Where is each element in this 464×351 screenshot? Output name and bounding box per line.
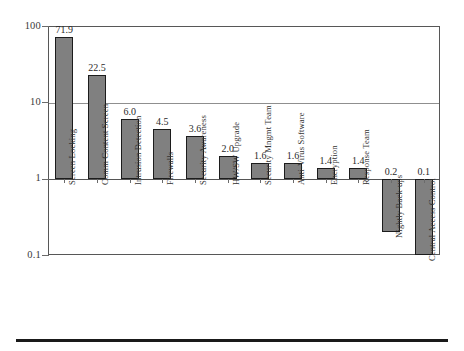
- bar-value-label: 4.5: [156, 116, 169, 127]
- x-axis-category-label: Encryption: [330, 145, 339, 185]
- x-axis-tick-mark: [391, 179, 392, 183]
- x-axis-category-label: Central Access Control: [428, 178, 437, 261]
- x-axis-category-label: Comm Content Screen: [101, 104, 110, 185]
- y-axis-tick-label: 10: [1, 97, 41, 107]
- x-axis-tick-mark: [326, 179, 327, 183]
- y-axis-tick-labels: 1001010.1: [0, 0, 41, 351]
- y-axis-tick-mark: [42, 255, 49, 256]
- y-axis-tick-mark: [42, 102, 49, 103]
- x-axis-category-label: Screen Locking: [68, 128, 77, 184]
- x-axis-tick-mark: [162, 179, 163, 183]
- x-axis-category-label: Response Team: [362, 129, 371, 185]
- x-axis-category-label: Intrusion Detection: [134, 115, 143, 184]
- x-axis-category-label: Security Awareness: [199, 115, 208, 185]
- y-axis-tick-mark: [42, 26, 49, 27]
- x-axis-tick-mark: [64, 179, 65, 183]
- bar-value-label: 71.9: [56, 24, 74, 35]
- x-axis-category-label: HW/SW Upgrade: [232, 122, 241, 185]
- x-axis-category-label: Security Mngmt Team: [264, 105, 273, 185]
- x-axis-category-label: Anti-Virus Software: [297, 112, 306, 185]
- bar-item[interactable]: 4.5: [153, 26, 171, 255]
- x-axis-tick-mark: [293, 179, 294, 183]
- y-axis-tick-mark: [42, 179, 49, 180]
- x-axis-tick-mark: [358, 179, 359, 183]
- bar-value-label: 22.5: [88, 62, 106, 73]
- y-axis-tick-label: 1: [1, 173, 41, 183]
- x-axis-tick-mark: [424, 179, 425, 183]
- x-axis-tick-mark: [130, 179, 131, 183]
- y-axis-tick-label: 0.1: [1, 250, 41, 260]
- x-axis-tick-mark: [195, 179, 196, 183]
- x-axis-tick-mark: [228, 179, 229, 183]
- x-axis-category-label: Nightly Back-ups: [395, 175, 404, 238]
- bar-item[interactable]: 1.4: [317, 26, 335, 255]
- bar-value-label: 0.1: [417, 166, 430, 177]
- x-axis-tick-mark: [260, 179, 261, 183]
- x-axis-tick-mark: [97, 179, 98, 183]
- chart-figure: 1001010.1 71.922.56.04.53.62.01.61.61.41…: [0, 0, 464, 351]
- bottom-rule: [16, 339, 448, 342]
- y-axis-tick-label: 100: [1, 21, 41, 31]
- x-axis-category-label: Firewalls: [166, 151, 175, 184]
